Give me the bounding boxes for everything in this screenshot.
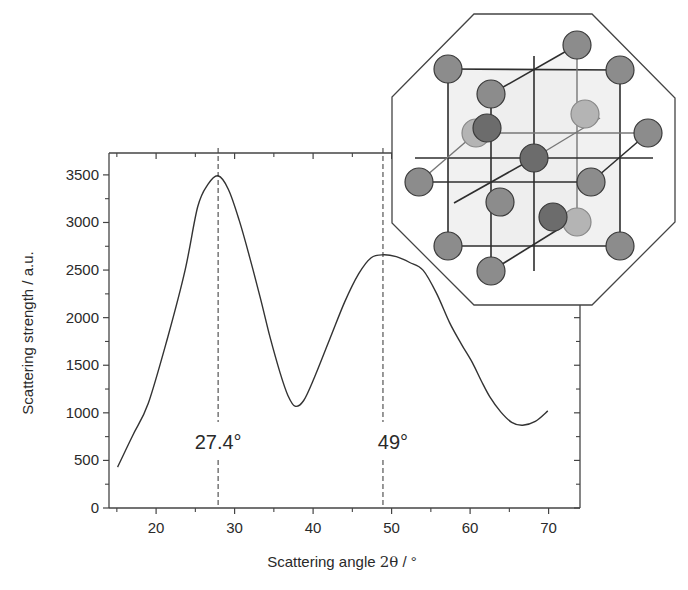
y-tick-label: 2500 [66, 261, 99, 278]
lattice-atom [477, 257, 505, 285]
x-tick-label: 70 [540, 519, 557, 536]
y-tick-label: 0 [91, 499, 99, 516]
y-tick-label: 3000 [66, 213, 99, 230]
lattice-atom [520, 144, 548, 172]
lattice-atom [563, 31, 591, 59]
y-axis-title: Scattering strength / a.u. [19, 251, 36, 414]
y-tick-label: 3500 [66, 166, 99, 183]
annotation-label: 49° [378, 431, 408, 453]
lattice-atom [606, 232, 634, 260]
x-axis-title: Scattering angle 2θ / ° [267, 553, 417, 571]
xrd-chart: 203040506070 050010001500200025003000350… [0, 0, 688, 590]
y-tick-label: 2000 [66, 309, 99, 326]
y-tick-label: 1500 [66, 356, 99, 373]
x-tick-label: 20 [148, 519, 165, 536]
y-tick-label: 500 [74, 451, 99, 468]
lattice-atom [434, 55, 462, 83]
lattice-atom [405, 168, 433, 196]
lattice-atom [563, 208, 591, 236]
lattice-atom [577, 168, 605, 196]
lattice-atom [606, 56, 634, 84]
peak-annotations: 27.4°49° [195, 148, 408, 508]
lattice-atom [473, 114, 501, 142]
x-tick-label: 40 [305, 519, 322, 536]
annotation-label: 27.4° [195, 431, 242, 453]
x-tick-label: 50 [383, 519, 400, 536]
y-tick-label: 1000 [66, 404, 99, 421]
lattice-atom [486, 188, 514, 216]
lattice-atom [434, 232, 462, 260]
lattice-atom [571, 100, 599, 128]
lattice-atom [634, 119, 662, 147]
x-tick-label: 60 [462, 519, 479, 536]
x-tick-label: 30 [226, 519, 243, 536]
crystal-lattice-inset [392, 14, 675, 305]
lattice-atom [539, 203, 567, 231]
lattice-atom [477, 80, 505, 108]
